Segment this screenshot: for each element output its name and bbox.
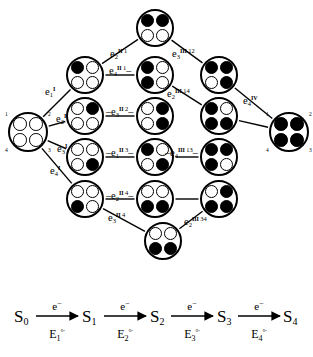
cluster-site-3-reduced xyxy=(164,242,177,255)
edge-S3-134-to-S4 xyxy=(239,121,268,128)
cluster-site-3-reduced xyxy=(156,117,169,130)
cluster-site-1-reduced xyxy=(205,61,218,74)
cluster-site-2-reduced xyxy=(156,14,169,27)
species-S4: S4 xyxy=(283,308,297,327)
cluster-site-2-reduced xyxy=(86,102,99,115)
edge-label-e2-I: e2I xyxy=(56,113,66,126)
cluster-site-1-reduced xyxy=(141,143,154,156)
cluster-site-3-oxidized xyxy=(29,133,43,147)
edge-label-e4-I: e4I xyxy=(50,165,60,178)
cluster-site-2-reduced xyxy=(220,185,233,198)
edge-label-e3-III-12: e3III 12 xyxy=(172,48,195,61)
cluster-site-3-oxidized xyxy=(86,200,99,213)
cluster-site-2-oxidized xyxy=(164,227,177,240)
site-number-4: 4 xyxy=(5,148,8,154)
cluster-site-1-reduced xyxy=(141,14,154,27)
cluster-site-4-reduced xyxy=(205,117,218,130)
cluster-site-3-oxidized xyxy=(86,117,99,130)
cluster-site-1-reduced xyxy=(205,102,218,115)
cluster-site-4-oxidized xyxy=(205,76,218,89)
cluster-s1-site4 xyxy=(66,180,104,218)
edge-label-e2-III-14: e2III 14 xyxy=(167,88,190,101)
edge-label-e3-I: e3I xyxy=(57,143,67,156)
cluster-site-1-oxidized xyxy=(141,185,154,198)
electron-label-3: e− xyxy=(171,300,213,312)
cluster-site-4-reduced xyxy=(141,200,154,213)
cluster-site-1-oxidized xyxy=(71,102,84,115)
cluster-site-2-oxidized xyxy=(86,61,99,74)
electron-label-2: e− xyxy=(104,300,146,312)
cluster-site-1-oxidized xyxy=(13,117,27,131)
cluster-site-3-reduced xyxy=(156,200,169,213)
cluster-site-1-reduced xyxy=(274,117,288,131)
cluster-site-1-oxidized xyxy=(71,143,84,156)
cluster-site-1-oxidized xyxy=(71,185,84,198)
cluster-s1-site3 xyxy=(66,138,104,176)
cluster-s0-all-empty: 1234 xyxy=(8,112,48,152)
cluster-site-3-reduced xyxy=(290,133,304,147)
cluster-site-3-reduced xyxy=(220,76,233,89)
potential-label-4: E4°′ xyxy=(238,328,280,343)
cluster-site-1-reduced xyxy=(205,143,218,156)
edge-label-e1-II-3: –e1II 3– xyxy=(106,147,133,160)
cluster-site-3-reduced xyxy=(220,117,233,130)
cluster-site-2-oxidized xyxy=(29,117,43,131)
cluster-site-3-oxidized xyxy=(220,158,233,171)
site-number-2: 2 xyxy=(309,112,312,118)
edge-label-e3-II-2: –e3II 2– xyxy=(106,106,133,119)
edge-label-e2-III-34: e2III 34 xyxy=(184,216,207,229)
cluster-site-2-oxidized xyxy=(86,185,99,198)
site-number-2: 2 xyxy=(48,112,51,118)
redox-microstate-figure: 12341234 e1Ie2Ie3Ie4Ie2II 1e4II 1––e3II … xyxy=(0,0,313,357)
cluster-s3-sites123 xyxy=(200,56,238,94)
cluster-s1-site2 xyxy=(66,97,104,135)
cluster-site-1-reduced xyxy=(141,61,154,74)
site-number-3: 3 xyxy=(48,148,51,154)
species-S2: S2 xyxy=(150,308,164,327)
cluster-site-4-oxidized xyxy=(71,76,84,89)
cluster-s3-sites134 xyxy=(200,97,238,135)
cluster-site-3-reduced xyxy=(156,158,169,171)
cluster-site-1-oxidized xyxy=(149,227,162,240)
edge-label-e2-II-4: –e2II 4– xyxy=(106,190,133,203)
species-S3: S3 xyxy=(217,308,231,327)
potential-label-3: E3°′ xyxy=(171,328,213,343)
cluster-site-4-reduced xyxy=(205,158,218,171)
cluster-site-4-oxidized xyxy=(141,29,154,42)
species-S1: S1 xyxy=(82,308,96,327)
edge-label-e4-II-1: e4II 1– xyxy=(109,65,131,78)
site-number-3: 3 xyxy=(309,148,312,154)
cluster-site-3-reduced xyxy=(220,200,233,213)
cluster-s3-sites124 xyxy=(200,138,238,176)
cluster-site-4-oxidized xyxy=(71,117,84,130)
electron-label-4: e− xyxy=(238,300,280,312)
cluster-site-2-reduced xyxy=(290,117,304,131)
edge-label-e4-III-13: –e4III 13– xyxy=(165,147,198,160)
cluster-site-1-oxidized xyxy=(205,185,218,198)
cluster-site-3-oxidized xyxy=(86,76,99,89)
cluster-s2-sites34-lower xyxy=(144,222,182,260)
cluster-site-4-reduced xyxy=(71,200,84,213)
cluster-s2-sites12 xyxy=(136,9,174,47)
cluster-site-4-reduced xyxy=(274,133,288,147)
potential-label-2: E2°′ xyxy=(104,328,146,343)
cluster-site-2-oxidized xyxy=(156,185,169,198)
cluster-site-4-oxidized xyxy=(141,117,154,130)
edge-label-e3-II-4: e3II 4 xyxy=(108,212,125,225)
site-number-1: 1 xyxy=(5,112,8,118)
cluster-site-4-oxidized xyxy=(71,158,84,171)
cluster-site-3-reduced xyxy=(86,158,99,171)
cluster-s2-sites34 xyxy=(136,180,174,218)
cluster-site-4-reduced xyxy=(205,200,218,213)
cluster-site-2-reduced xyxy=(220,61,233,74)
edge-label-e1-I: e1I xyxy=(45,86,55,99)
cluster-site-2-oxidized xyxy=(86,143,99,156)
cluster-s2-sites23 xyxy=(136,97,174,135)
cluster-s1-site1 xyxy=(66,56,104,94)
cluster-site-2-reduced xyxy=(156,102,169,115)
edge-label-e2-II-1: e2II 1 xyxy=(110,48,127,61)
cluster-site-4-oxidized xyxy=(13,133,27,147)
cluster-site-2-oxidized xyxy=(156,61,169,74)
electron-label-1: e− xyxy=(36,300,78,312)
cluster-site-4-reduced xyxy=(141,76,154,89)
